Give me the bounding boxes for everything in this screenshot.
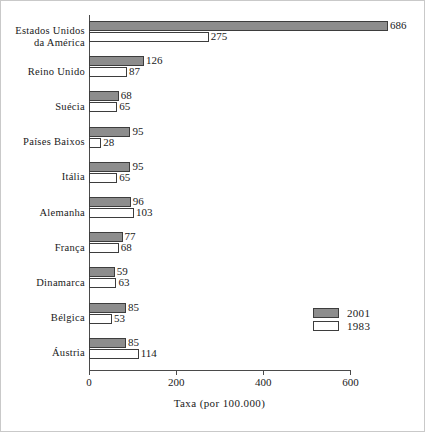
- bar-row: 114: [89, 349, 394, 359]
- bar-value-label: 53: [112, 312, 125, 325]
- bar-row: 59: [89, 267, 394, 277]
- bar-row: 63: [89, 278, 394, 288]
- bar-value-label: 114: [139, 347, 157, 360]
- bar-row: 28: [89, 138, 394, 148]
- bar-value-label: 85: [126, 301, 139, 314]
- bar-row: 68: [89, 91, 394, 101]
- bar-2001: [89, 21, 388, 31]
- x-axis-line: [89, 370, 350, 371]
- category-label: Alemanha: [0, 207, 85, 219]
- bar-value-label: 686: [388, 19, 407, 32]
- bar-row: 65: [89, 102, 394, 112]
- x-tick-0: [89, 370, 90, 375]
- x-tick-label-0: 0: [86, 376, 92, 388]
- bar-row: 77: [89, 232, 394, 242]
- bar-group: Reino Unido12687: [1, 56, 425, 78]
- bar-value-label: 95: [130, 125, 143, 138]
- bar-1983: [89, 138, 101, 148]
- chart-figure: 0200400600 Taxa (por 100.000) Estados Un…: [0, 0, 425, 432]
- bar-row: 65: [89, 173, 394, 183]
- bar-value-label: 95: [130, 160, 143, 173]
- bar-row: 87: [89, 67, 394, 77]
- bar-row: 85: [89, 338, 394, 348]
- category-label: Estados Unidos da América: [0, 25, 85, 48]
- bar-value-label: 28: [101, 136, 114, 149]
- bar-1983: [89, 314, 112, 324]
- bar-value-label: 63: [116, 276, 129, 289]
- bar-1983: [89, 67, 127, 77]
- category-label: Suécia: [0, 101, 85, 113]
- bar-1983: [89, 243, 119, 253]
- legend-swatch-1983: [313, 321, 339, 331]
- bar-1983: [89, 173, 117, 183]
- x-tick-label-400: 400: [255, 376, 272, 388]
- bar-group: Dinamarca5963: [1, 267, 425, 289]
- bar-group: Suécia6865: [1, 91, 425, 113]
- bar-2001: [89, 338, 126, 348]
- legend-label-1983: 1983: [347, 320, 370, 332]
- bar-value-label: 87: [127, 65, 140, 78]
- bar-value-label: 126: [144, 54, 163, 67]
- bar-group: Áustria85114: [1, 338, 425, 360]
- legend-item-2001: 2001: [313, 307, 370, 319]
- bar-2001: [89, 91, 119, 101]
- bar-1983: [89, 278, 116, 288]
- bar-value-label: 65: [117, 171, 130, 184]
- bar-row: 103: [89, 208, 394, 218]
- bar-value-label: 68: [119, 241, 132, 254]
- x-tick-200: [176, 370, 177, 375]
- legend-item-1983: 1983: [313, 320, 370, 332]
- bar-value-label: 85: [126, 336, 139, 349]
- category-label: Dinamarca: [0, 277, 85, 289]
- bar-value-label: 275: [209, 30, 228, 43]
- bar-2001: [89, 267, 115, 277]
- bar-row: 68: [89, 243, 394, 253]
- bar-group: Itália9565: [1, 162, 425, 184]
- bar-value-label: 65: [117, 100, 130, 113]
- x-tick-label-200: 200: [168, 376, 185, 388]
- bar-1983: [89, 349, 139, 359]
- category-label: Itália: [0, 171, 85, 183]
- bar-group: Países Baixos9528: [1, 127, 425, 149]
- chart-legend: 2001 1983: [313, 307, 370, 333]
- x-tick-label-600: 600: [342, 376, 359, 388]
- legend-swatch-2001: [313, 308, 339, 318]
- category-label: Bélgica: [0, 312, 85, 324]
- bar-value-label: 103: [134, 206, 153, 219]
- category-label: Reino Unido: [0, 66, 85, 78]
- x-axis-title: Taxa (por 100.000): [89, 397, 350, 409]
- category-label: Países Baixos: [0, 136, 85, 148]
- bar-group: Alemanha96103: [1, 197, 425, 219]
- bar-row: 95: [89, 127, 394, 137]
- bar-row: 275: [89, 32, 394, 42]
- bar-2001: [89, 197, 131, 207]
- bar-row: 95: [89, 162, 394, 172]
- bar-1983: [89, 102, 117, 112]
- bar-group: França7768: [1, 232, 425, 254]
- x-tick-600: [350, 370, 351, 375]
- legend-label-2001: 2001: [347, 307, 370, 319]
- bar-1983: [89, 208, 134, 218]
- bar-row: 686: [89, 21, 394, 31]
- bar-2001: [89, 232, 123, 242]
- category-label: França: [0, 242, 85, 254]
- bar-group: Estados Unidos da América686275: [1, 21, 425, 43]
- plot-area: 0200400600 Taxa (por 100.000) Estados Un…: [1, 1, 425, 432]
- x-tick-400: [263, 370, 264, 375]
- bar-1983: [89, 32, 209, 42]
- category-label: Áustria: [0, 347, 85, 359]
